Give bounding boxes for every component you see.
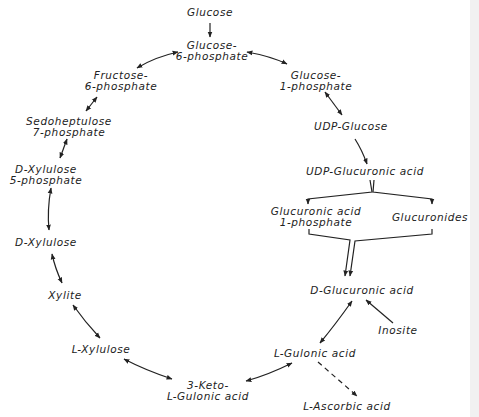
arrow-dxyl-xylite [52, 254, 62, 283]
node-sedoheptulose-7-phosphate: Sedoheptulose 7-phosphate [26, 116, 112, 138]
node-glucose: Glucose [187, 7, 233, 18]
node-glucose-1-phosphate: Glucose- 1-phosphate [280, 70, 353, 92]
arrow-inosite-dglucuronic [366, 300, 393, 323]
arrow-dglucuronic-lgulonic [320, 301, 352, 343]
node-glucose-6-phosphate: Glucose- 6-phosphate [176, 40, 249, 62]
arrow-xylite-lxyl [73, 305, 100, 338]
arrow-udpglc-udpgluc [355, 139, 367, 164]
node-l-ascorbic-acid: L-Ascorbic acid [303, 401, 390, 412]
node-d-glucuronic-acid: D-Glucuronic acid [310, 285, 413, 296]
arrow-lgulonic-lascorbic [318, 362, 357, 396]
arrow-sedo-dxyl5p [60, 139, 67, 158]
node-d-xylulose: D-Xylulose [15, 237, 77, 248]
node-3-keto-l-gulonic-acid: 3-Keto- L-Gulonic acid [167, 380, 249, 402]
arrow-g1p-udpglc [325, 92, 342, 115]
node-xylite: Xylite [48, 290, 81, 301]
node-glucuronides: Glucuronides [392, 212, 468, 223]
branch-udpgluc-split [308, 180, 372, 204]
arrow-keto-lgulonic [246, 363, 292, 381]
node-d-xylulose-5-phosphate: D-Xylulose 5-phosphate [10, 164, 83, 186]
arrow-f6p-sedo [86, 97, 97, 111]
branch-udpgluc-split-2 [373, 180, 432, 204]
node-fructose-6-phosphate: Fructose- 6-phosphate [85, 70, 158, 92]
merge-gluc1p [309, 229, 350, 276]
node-inosite: Inosite [378, 325, 417, 336]
arrow-g6p-f6p [137, 52, 178, 68]
node-glucuronic-acid-1-phosphate: Glucuronic acid 1-phosphate [271, 206, 361, 228]
node-udp-glucose: UDP-Glucose [314, 121, 388, 132]
node-l-gulonic-acid: L-Gulonic acid [274, 348, 356, 359]
arrow-dxyl5p-dxyl [48, 188, 51, 230]
arrow-lxyl-keto [124, 359, 172, 379]
node-udp-glucuronic-acid: UDP-Glucuronic acid [306, 166, 424, 177]
node-l-xylulose: L-Xylulose [72, 344, 131, 355]
merge-glucuronides [350, 229, 432, 276]
arrow-g6p-g1p [247, 52, 287, 64]
